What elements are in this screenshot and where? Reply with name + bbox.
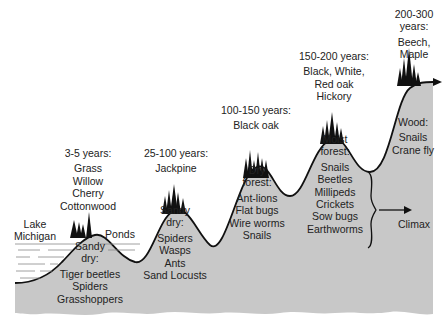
trees-stage1	[70, 212, 92, 238]
stage-3-animals: Dry forest: Ant-lions Flat bugs Wire wor…	[220, 164, 294, 241]
stage-3-plants: 100-150 years: Black oak	[216, 104, 296, 132]
stage-2-animals: Sandy dry: Spiders Wasps Ants Sand Locus…	[130, 204, 220, 281]
stage-2-plants: 25-100 years: Jackpine	[136, 147, 216, 175]
succession-diagram: Lake Michigan Ponds Climax 3-5 years: Gr…	[0, 0, 446, 329]
stage-4-plants: 150-200 years: Black, White, Red oak Hic…	[292, 50, 376, 103]
stage-1-animals: Sandy dry: Tiger beetles Spiders Grassho…	[40, 240, 140, 305]
stage-5-plants: 200-300 years: Beech, Maple	[386, 8, 442, 61]
stage-4-animals: Moist forest: Snails Beetles Millipeds C…	[300, 133, 370, 235]
climax-label: Climax	[386, 218, 442, 230]
arrow-head	[433, 78, 442, 86]
stage-1-plants: 3-5 years: Grass Willow Cherry Cottonwoo…	[48, 147, 128, 212]
stage-5-animals: Wood: Snails Crane fly	[382, 116, 444, 156]
